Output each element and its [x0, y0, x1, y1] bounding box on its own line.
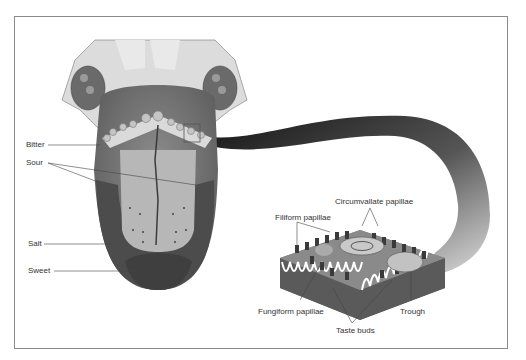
label-fungiform-papillae: Fungiform papillae: [258, 308, 324, 316]
circumvallate-papilla-1: [340, 237, 384, 255]
label-salt: Salt: [28, 240, 42, 248]
label-circumvallate-papillae: Circumvallate papillae: [335, 198, 413, 206]
label-sour: Sour: [26, 159, 43, 167]
label-trough: Trough: [400, 308, 425, 316]
tongue-illustration: [0, 0, 526, 360]
label-sweet: Sweet: [28, 267, 50, 275]
label-bitter: Bitter: [26, 141, 45, 149]
label-taste-buds: Taste buds: [336, 327, 375, 335]
label-filiform-papillae: Filiform papillae: [275, 214, 331, 222]
circumvallate-papilla-2: [387, 252, 423, 272]
fungiform-papilla: [315, 244, 333, 256]
